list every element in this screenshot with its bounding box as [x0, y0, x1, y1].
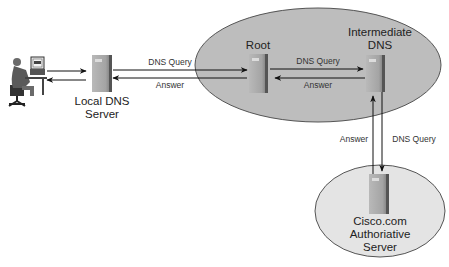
local-dns-server-icon: [92, 55, 112, 92]
root-server-icon: [249, 54, 268, 93]
root-label: Root: [240, 39, 276, 52]
intermediate-dns-server-icon: [366, 55, 385, 92]
authoritative-server-icon: [369, 174, 389, 214]
dns-diagram: Local DNS Server Root Intermediate DNS C…: [0, 0, 449, 267]
intermediate-dns-label: Intermediate DNS: [342, 26, 418, 52]
local-dns-label: Local DNS Server: [72, 95, 132, 121]
edge-label-root-local-answer: Answer: [140, 81, 200, 91]
local-dns-label-line2: Server: [72, 108, 132, 121]
edge-label-root-intermediate-query: DNS Query: [286, 57, 350, 67]
authoritative-label-line2: Authoriative: [340, 228, 420, 241]
edge-label-intermediate-authoritative-query: DNS Query: [386, 135, 442, 145]
authoritative-label-line1: Cisco.com: [340, 215, 420, 228]
user-at-workstation-icon: [9, 57, 47, 106]
intermediate-label-line1: Intermediate: [342, 26, 418, 39]
edge-label-local-root-query: DNS Query: [140, 58, 200, 68]
local-dns-label-line1: Local DNS: [72, 95, 132, 108]
intermediate-label-line2: DNS: [342, 39, 418, 52]
authoritative-label-line3: Server: [340, 241, 420, 254]
edge-label-intermediate-root-answer: Answer: [290, 81, 346, 91]
edge-label-authoritative-answer: Answer: [338, 135, 370, 145]
authoritative-server-label: Cisco.com Authoriative Server: [340, 215, 420, 255]
